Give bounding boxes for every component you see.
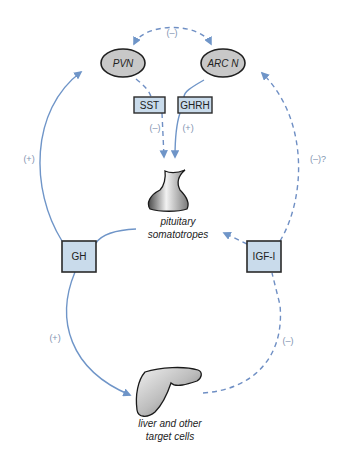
sst-pituitary-arrow [162, 113, 164, 157]
ghrh-node: GHRH [178, 97, 212, 113]
sign-liver-igf1: (–) [283, 336, 294, 346]
pituitary-node: pituitary somatotropes [148, 170, 209, 240]
liver-node: liver and other target cells [136, 368, 202, 442]
ghrh-pituitary-arrow [175, 113, 180, 157]
arcn-node: ARC N [201, 49, 245, 77]
arcn-label: ARC N [206, 58, 239, 69]
liver-icon [136, 368, 201, 417]
gh-node: GH [62, 241, 96, 272]
pituitary-label-line1: pituitary [159, 216, 196, 227]
igf1-arcn-arrow [262, 73, 299, 241]
sst-node: SST [134, 97, 165, 113]
pituitary-gland-icon [148, 170, 188, 211]
liver-label-line1: liver and other [138, 418, 202, 429]
sign-pvn-arcn: (–) [167, 28, 178, 38]
pituitary-label-line2: somatotropes [148, 229, 209, 240]
gh-liver-arrow [67, 272, 130, 395]
sign-gh-liver: (+) [49, 333, 60, 343]
ghrh-label: GHRH [180, 100, 209, 111]
pvn-sst-arrow [136, 79, 151, 97]
liver-igf1-arrow [203, 273, 280, 393]
sign-sst: (–) [150, 123, 161, 133]
igf1-node: IGF-I [247, 241, 281, 272]
igf1-pituitary-arrow [224, 233, 247, 244]
igf1-label: IGF-I [253, 251, 276, 262]
sign-ghrh: (+) [182, 123, 193, 133]
pvn-node: PVN [101, 49, 145, 77]
sign-gh-pvn: (+) [23, 154, 34, 164]
pituitary-gh-arrow [96, 229, 136, 243]
arcn-ghrh-arrow [184, 80, 204, 97]
liver-label-line2: target cells [146, 431, 194, 442]
pvn-label: PVN [113, 58, 134, 69]
sst-label: SST [140, 100, 159, 111]
gh-label: GH [72, 251, 87, 262]
gh-pvn-arrow [40, 72, 81, 241]
gh-igf1-feedback-diagram: PVN ARC N SST GHRH pituitary somatotrope… [0, 0, 344, 461]
sign-igf1-arcn: (–)? [310, 154, 326, 164]
